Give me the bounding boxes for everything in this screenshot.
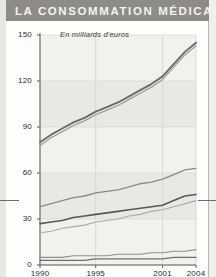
x-axis-tick-label: 2004 [181,269,211,277]
y-axis-tick-label: 120 [8,76,32,85]
page-title: LA CONSOMMATION MÉDICALE [6,5,216,17]
x-axis-tick-label: 2001 [148,269,178,277]
chart-subtitle: En milliards d'euros [60,30,129,39]
chart-title-band: LA CONSOMMATION MÉDICALE [6,0,209,21]
plot-area: En milliards d'euros 1501209060300 19901… [0,21,216,277]
y-axis-tick-label: 30 [8,214,32,223]
y-axis-tick-label: 150 [8,30,32,39]
line-chart-svg [0,21,216,277]
y-axis-tick-label: 60 [8,168,32,177]
chart-figure: LA CONSOMMATION MÉDICALE En milliards d'… [0,0,216,277]
y-axis-tick-label: 0 [8,260,32,269]
x-axis-tick-label: 1995 [81,269,111,277]
x-axis-tick-label: 1990 [25,269,55,277]
y-axis-tick-label: 90 [8,122,32,131]
